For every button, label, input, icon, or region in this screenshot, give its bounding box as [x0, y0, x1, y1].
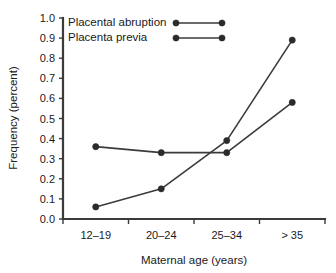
legend-label: Placental abruption — [68, 16, 166, 28]
legend-marker-right — [219, 35, 225, 41]
legend-marker-left — [173, 35, 179, 41]
y-tick-label: 0.7 — [40, 72, 55, 84]
y-tick-label: 0.0 — [40, 213, 55, 225]
legend-label: Placenta previa — [68, 31, 148, 43]
data-point — [158, 150, 164, 156]
y-tick-label: 0.6 — [40, 92, 55, 104]
data-point — [224, 138, 230, 144]
y-tick-label: 0.5 — [40, 113, 55, 125]
figure-container: 0.00.10.20.30.40.50.60.70.80.91.0 12–192… — [0, 0, 336, 273]
y-tick-label: 0.2 — [40, 173, 55, 185]
y-tick-label: 0.3 — [40, 153, 55, 165]
y-tick-label: 0.8 — [40, 52, 55, 64]
data-point — [289, 37, 295, 43]
data-point — [224, 150, 230, 156]
x-tick-label: 25–34 — [211, 229, 242, 241]
legend-marker-left — [173, 20, 179, 26]
data-point — [289, 99, 295, 105]
line-chart: 0.00.10.20.30.40.50.60.70.80.91.0 12–192… — [0, 0, 336, 273]
y-tick-label: 0.9 — [40, 32, 55, 44]
y-tick-label: 0.4 — [40, 133, 55, 145]
data-point — [158, 186, 164, 192]
data-point — [93, 204, 99, 210]
y-tick-label: 0.1 — [40, 193, 55, 205]
x-tick-label: 20–24 — [146, 229, 177, 241]
x-tick-label: 12–19 — [80, 229, 111, 241]
x-axis-title: Maternal age (years) — [141, 254, 247, 266]
y-tick-label: 1.0 — [40, 12, 55, 24]
x-tick-label: > 35 — [281, 229, 303, 241]
y-axis-title: Frequency (percent) — [7, 66, 19, 170]
data-point — [93, 144, 99, 150]
legend-marker-right — [219, 20, 225, 26]
